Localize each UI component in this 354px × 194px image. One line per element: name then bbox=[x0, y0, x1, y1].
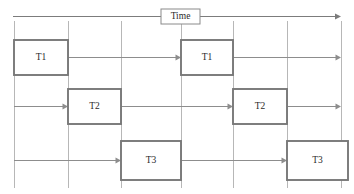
task-box-t1-1[interactable]: T1 bbox=[14, 40, 68, 75]
time-axis-label: Time bbox=[161, 9, 200, 24]
task-box-label: T2 bbox=[89, 101, 100, 111]
time-axis-arrowhead bbox=[335, 13, 341, 19]
timing-diagram-canvas: T1T1T2T2T3T3 Time bbox=[0, 0, 354, 194]
task-box-label: T1 bbox=[36, 52, 47, 62]
task-box-label: T3 bbox=[312, 155, 323, 165]
timing-diagram-svg: T1T1T2T2T3T3 Time bbox=[0, 0, 354, 194]
task-box-label: T3 bbox=[146, 155, 157, 165]
task-box-label: T2 bbox=[255, 101, 266, 111]
time-axis-label-text: Time bbox=[171, 11, 191, 21]
task-box-t3-2[interactable]: T3 bbox=[287, 141, 348, 180]
task-box-label: T1 bbox=[202, 52, 213, 62]
task-box-t1-2[interactable]: T1 bbox=[181, 40, 233, 75]
task-box-t2-2[interactable]: T2 bbox=[233, 89, 287, 124]
row-t2-arrowhead-3 bbox=[336, 104, 342, 110]
time-axis-group: Time bbox=[13, 9, 341, 24]
row-t1-arrowhead-2 bbox=[336, 55, 342, 61]
task-box-t3-1[interactable]: T3 bbox=[121, 141, 181, 180]
task-box-t2-1[interactable]: T2 bbox=[68, 89, 121, 124]
